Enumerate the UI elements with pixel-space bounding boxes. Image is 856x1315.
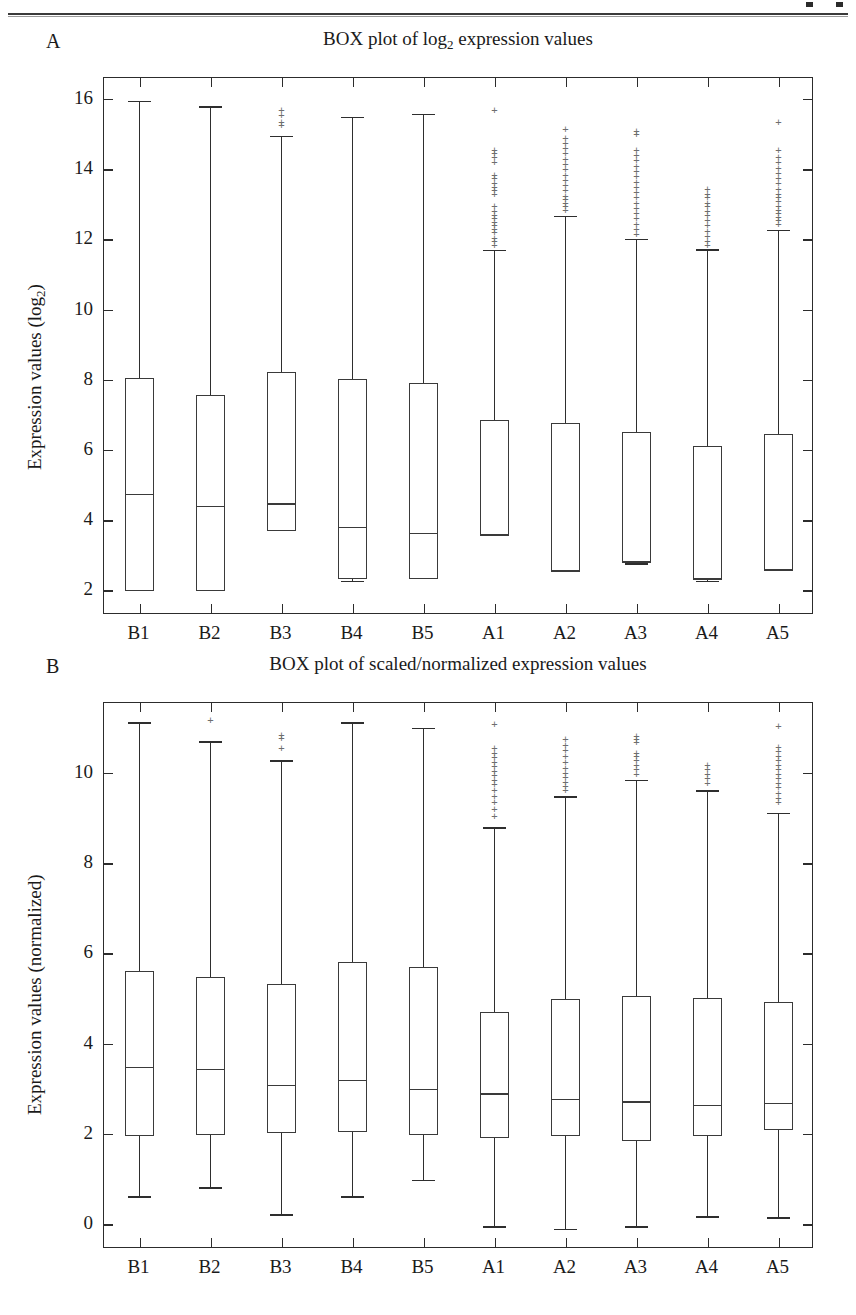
panel-a-xtick-label-a4: A4 [677,622,737,644]
panel-a-box-a5: ++++++++++++++++++ [104,78,812,613]
panel-a-title-sub: 2 [447,37,454,52]
panel-a-ytick-label: 12 [41,227,93,249]
panel-b-xtick-label-a4: A4 [677,1256,737,1278]
median-line [764,570,792,571]
whisker-cap-upper [767,230,791,232]
outlier-marker: + [775,720,781,731]
header-mark-right [836,2,843,7]
panel-b-ytick-label: 10 [41,761,93,783]
header-rule-thin [8,16,848,17]
panel-b-xtick-label-b5: B5 [393,1256,453,1278]
figure-page: A BOX plot of log2 expression values Exp… [0,0,856,1315]
box-iqr [764,434,792,570]
whisker-upper [778,230,779,435]
panel-b-letter: B [46,655,60,678]
panel-b-ytick-label: 8 [41,851,93,873]
panel-a-xtick-label-a2: A2 [535,622,595,644]
panel-a-xtick-label-a1: A1 [464,622,524,644]
panel-b-plot-frame: ++++++++++++++++++++++++++++++++++++++++… [103,702,813,1248]
panel-b-ytick-label: 2 [41,1122,93,1144]
panel-a-ytick-label: 10 [41,298,93,320]
panel-a-xtick-label-b1: B1 [109,622,169,644]
panel-a-xtick-label-b2: B2 [180,622,240,644]
panel-b-xtick-label-b2: B2 [180,1256,240,1278]
panel-a-ytick-label: 2 [41,578,93,600]
panel-a-xtick-label-b4: B4 [322,622,382,644]
outlier-marker: + [775,218,781,229]
panel-b-xtick-label-a1: A1 [464,1256,524,1278]
panel-b-ylabel: Expression values (normalized) [24,874,46,1115]
panel-a-title-pre: BOX plot of log [323,28,447,49]
outlier-marker: + [775,797,781,808]
panel-b-xtick-label-b1: B1 [109,1256,169,1278]
panel-a-title-post: expression values [454,28,593,49]
panel-a-title: BOX plot of log2 expression values [103,28,813,50]
outlier-marker: + [775,116,781,127]
panel-b-xtick-label-b4: B4 [322,1256,382,1278]
panel-a-xtick-label-a3: A3 [606,622,666,644]
panel-a-ytick-label: 6 [41,438,93,460]
panel-a-ytick-label: 16 [41,87,93,109]
panel-b-xtick-label-a3: A3 [606,1256,666,1278]
panel-b-ytick-label: 4 [41,1032,93,1054]
whisker-upper [778,813,779,1003]
header-rule [8,13,848,15]
panel-a-ytick-label: 14 [41,157,93,179]
panel-a-xtick-label-a5: A5 [748,622,808,644]
whisker-cap-lower [767,1217,791,1219]
whisker-lower [778,1130,779,1217]
header-mark-left [806,2,813,7]
panel-b-xtick-label-a5: A5 [748,1256,808,1278]
panel-b-ytick-label: 0 [41,1212,93,1234]
panel-b-xtick-label-a2: A2 [535,1256,595,1278]
panel-a-plot-frame: ++++++++++++++++++++++++++++++++++++++++… [103,77,813,614]
panel-a-xtick-label-b3: B3 [251,622,311,644]
panel-b-ytick-label: 6 [41,941,93,963]
panel-a-letter: A [46,30,61,53]
panel-a-ytick-label: 4 [41,508,93,530]
panel-a-ytick-label: 8 [41,368,93,390]
panel-b-title: BOX plot of scaled/normalized expression… [103,653,813,675]
panel-a-xtick-label-b5: B5 [393,622,453,644]
panel-b-xtick-label-b3: B3 [251,1256,311,1278]
panel-b-box-a5: ++++++++++++++ [104,703,812,1247]
whisker-cap-upper [767,813,791,815]
box-iqr [764,1002,792,1130]
median-line [764,1103,792,1104]
